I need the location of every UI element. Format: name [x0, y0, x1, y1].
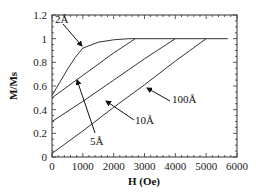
y-tick-label: 0.8 [33, 56, 47, 68]
y-tick-label: 1.2 [33, 9, 47, 21]
y-tick-labels: 00.20.40.60.811.2 [33, 9, 47, 163]
x-tick-label: 5000 [195, 160, 218, 172]
y-tick-label: 0.6 [33, 80, 47, 92]
label-5A: 5Å [90, 135, 104, 147]
label-100A: 100Å [172, 93, 197, 105]
y-tick-label: 0.4 [33, 104, 47, 116]
y-axis-title: M/Ms [7, 71, 19, 100]
x-tick-label: 3000 [134, 160, 157, 172]
plot-frame [52, 15, 237, 157]
curve-10Å [52, 39, 175, 122]
y-tick-label: 1 [42, 33, 48, 45]
x-axis-title: H (Oe) [128, 175, 160, 188]
curves [52, 39, 228, 154]
curve-2Å [52, 39, 228, 96]
x-tick-label: 2000 [103, 160, 126, 172]
x-tick-label: 4000 [164, 160, 187, 172]
x-tick-label: 1000 [72, 160, 95, 172]
y-tick-label: 0.2 [33, 127, 47, 139]
label-2A: 2Å [55, 13, 69, 25]
arrow-2A [63, 24, 82, 46]
arrow-100A [147, 88, 170, 101]
axis-ticks [52, 15, 237, 157]
x-tick-label: 0 [49, 160, 55, 172]
x-tick-labels: 0100020003000400050006000 [49, 160, 248, 172]
y-tick-label: 0 [42, 151, 48, 163]
curve-5Å [52, 39, 135, 98]
x-tick-label: 6000 [226, 160, 249, 172]
magnetization-chart: 0100020003000400050006000 00.20.40.60.81… [0, 0, 256, 195]
label-10A: 10Å [135, 114, 154, 126]
arrow-5A [77, 80, 95, 133]
